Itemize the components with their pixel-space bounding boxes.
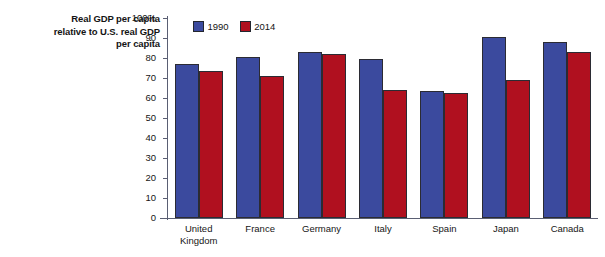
category-label-line: Japan (475, 223, 536, 235)
bar-group (543, 18, 591, 218)
bar-spain-2014[interactable] (444, 93, 468, 218)
category-label: Italy (352, 223, 413, 235)
bar-group (175, 18, 223, 218)
category-label: Spain (414, 223, 475, 235)
chart-figure: Real GDP per capita relative to U.S. rea… (0, 0, 605, 257)
bar-germany-1990[interactable] (298, 52, 322, 218)
category-label-line: Italy (352, 223, 413, 235)
bars-layer (168, 0, 598, 257)
bar-germany-2014[interactable] (322, 54, 346, 218)
category-label: Canada (537, 223, 598, 235)
y-axis-tick-label: 50 (122, 113, 156, 123)
y-axis-tick-label: 30 (122, 153, 156, 163)
y-axis-tick-label: 70 (122, 73, 156, 83)
category-label-line: France (229, 223, 290, 235)
category-label-line: Germany (291, 223, 352, 235)
y-axis-tick-label: 80 (122, 53, 156, 63)
category-label-line: Canada (537, 223, 598, 235)
x-axis-category-labels: UnitedKingdomFranceGermanyItalySpainJapa… (168, 223, 598, 255)
bar-group (359, 18, 407, 218)
bar-united-kingdom-1990[interactable] (175, 64, 199, 218)
bar-canada-1990[interactable] (543, 42, 567, 218)
category-label: Japan (475, 223, 536, 235)
category-label-line: Spain (414, 223, 475, 235)
category-label: France (229, 223, 290, 235)
category-label: Germany (291, 223, 352, 235)
category-label-line: Kingdom (168, 235, 229, 247)
bar-japan-2014[interactable] (506, 80, 530, 218)
bar-group (482, 18, 530, 218)
y-axis-tick-label: 60 (122, 93, 156, 103)
bar-japan-1990[interactable] (482, 37, 506, 218)
bar-group (420, 18, 468, 218)
y-axis-tick-label: 40 (122, 133, 156, 143)
y-axis-tick-labels: 100%9080706050403020100 (122, 0, 156, 257)
bar-france-2014[interactable] (260, 76, 284, 218)
bar-group (236, 18, 284, 218)
y-axis-tick-label: 0 (122, 213, 156, 223)
category-label-line: United (168, 223, 229, 235)
bar-france-1990[interactable] (236, 57, 260, 218)
y-axis-tick-label: 10 (122, 193, 156, 203)
y-axis-tick-label: 20 (122, 173, 156, 183)
bar-italy-1990[interactable] (359, 59, 383, 218)
bar-canada-2014[interactable] (567, 52, 591, 218)
bar-spain-1990[interactable] (420, 91, 444, 218)
bar-italy-2014[interactable] (383, 90, 407, 218)
y-axis-tick-label: 90 (122, 33, 156, 43)
bar-group (298, 18, 346, 218)
y-axis-tick-label: 100% (122, 13, 156, 23)
category-label: UnitedKingdom (168, 223, 229, 246)
bar-united-kingdom-2014[interactable] (199, 71, 223, 218)
